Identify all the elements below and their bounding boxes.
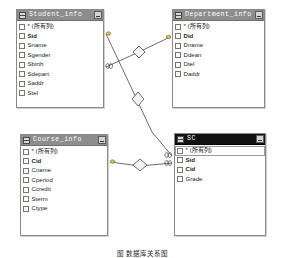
table-icon: [177, 136, 184, 143]
field-checkbox[interactable]: [175, 33, 181, 39]
field-label: Dtel: [184, 61, 195, 68]
field-row[interactable]: Grade: [175, 175, 265, 185]
field-label: Sterm: [32, 196, 48, 203]
field-row[interactable]: * (所有列): [17, 22, 103, 32]
field-label: * (所有列): [28, 23, 54, 30]
field-row[interactable]: Dtel: [173, 60, 264, 70]
title-bar-sc[interactable]: SC: [175, 134, 265, 145]
field-row[interactable]: Ddean: [173, 51, 264, 61]
field-label: Sdepart: [28, 71, 49, 78]
field-row[interactable]: Stel: [17, 89, 103, 99]
field-row[interactable]: Ctype: [21, 204, 107, 214]
table-window-department-info[interactable]: Department_info * (所有列) Did Dname Ddean: [172, 9, 265, 108]
field-checkbox[interactable]: [175, 52, 181, 58]
field-checkbox[interactable]: [23, 149, 29, 155]
table-title-label: Department_info: [185, 11, 255, 19]
relationship-diamond-course-sc: [133, 159, 147, 171]
field-row[interactable]: * (所有列): [175, 146, 265, 156]
minimize-icon[interactable]: [94, 11, 102, 19]
table-icon: [23, 137, 30, 144]
field-checkbox[interactable]: [19, 24, 25, 30]
relationship-line-student-sc: [106, 34, 172, 156]
field-row[interactable]: Cid: [175, 165, 265, 175]
minimize-icon[interactable]: [255, 11, 263, 19]
field-checkbox[interactable]: [177, 176, 183, 182]
field-label: Grade: [186, 176, 203, 183]
field-label: Cname: [32, 167, 52, 174]
field-checkbox[interactable]: [19, 71, 25, 77]
field-row[interactable]: * (所有列): [173, 22, 264, 32]
table-window-sc[interactable]: SC * (所有列) Sid Cid Grade: [174, 133, 266, 236]
field-label: Cid: [186, 166, 196, 173]
field-row[interactable]: Cname: [21, 166, 107, 176]
table-window-course-info[interactable]: Course_info * (所有列) Cid Cname Cperiod: [20, 134, 108, 236]
field-checkbox[interactable]: [23, 177, 29, 183]
field-checkbox[interactable]: [19, 43, 25, 49]
field-checkbox[interactable]: [175, 62, 181, 68]
field-label: * (所有列): [186, 147, 212, 154]
field-checkbox[interactable]: [23, 158, 29, 164]
key-endpoint-student-sid: [106, 32, 110, 35]
field-row[interactable]: Sbirth: [17, 60, 103, 70]
field-label: * (所有列): [32, 148, 58, 155]
table-title-label: Student_info: [29, 11, 94, 19]
relationship-diamond-student-department: [133, 46, 145, 58]
field-checkbox[interactable]: [175, 71, 181, 77]
field-checkbox[interactable]: [23, 206, 29, 212]
field-row[interactable]: Dname: [173, 41, 264, 51]
field-row[interactable]: Sterm: [21, 195, 107, 205]
title-bar-course-info[interactable]: Course_info: [21, 135, 107, 146]
field-label: Daddr: [184, 71, 201, 78]
field-row[interactable]: Ccredit: [21, 185, 107, 195]
field-checkbox[interactable]: [19, 52, 25, 58]
minimize-icon[interactable]: [98, 136, 106, 144]
field-label: Sid: [28, 33, 37, 40]
field-row[interactable]: Sgender: [17, 51, 103, 61]
field-row[interactable]: Did: [173, 32, 264, 42]
field-row[interactable]: Daddr: [173, 70, 264, 80]
field-label: Sname: [28, 42, 47, 49]
table-window-student-info[interactable]: Student_info * (所有列) Sid Sname Sgender: [16, 9, 104, 108]
field-checkbox[interactable]: [19, 62, 25, 68]
field-row[interactable]: Sid: [175, 156, 265, 166]
field-list-sc: * (所有列) Sid Cid Grade: [175, 145, 265, 184]
field-row[interactable]: Sid: [17, 32, 103, 42]
field-label: Ctype: [32, 205, 48, 212]
field-row[interactable]: Cid: [21, 157, 107, 167]
field-checkbox[interactable]: [175, 43, 181, 49]
field-label: Did: [184, 33, 194, 40]
field-label: Sid: [186, 157, 195, 164]
field-label: Sbirth: [28, 61, 44, 68]
key-endpoint-course-cid: [110, 160, 114, 163]
field-checkbox[interactable]: [175, 24, 181, 30]
field-row[interactable]: Sname: [17, 41, 103, 51]
field-checkbox[interactable]: [177, 167, 183, 173]
database-diagram-canvas: Student_info * (所有列) Sid Sname Sgender: [0, 0, 285, 258]
title-bar-student-info[interactable]: Student_info: [17, 10, 103, 21]
title-bar-department-info[interactable]: Department_info: [173, 10, 264, 21]
many-endpoint-sc-cid: [165, 161, 172, 166]
field-checkbox[interactable]: [19, 90, 25, 96]
field-row[interactable]: * (所有列): [21, 147, 107, 157]
field-label: Stel: [28, 90, 39, 97]
field-list-student-info: * (所有列) Sid Sname Sgender Sbirth Sdepart: [17, 21, 103, 98]
field-label: * (所有列): [184, 23, 210, 30]
field-checkbox[interactable]: [19, 81, 25, 87]
field-row[interactable]: Cperiod: [21, 176, 107, 186]
relationship-diamond-student-sc: [132, 92, 144, 106]
field-row[interactable]: Sdepart: [17, 70, 103, 80]
field-checkbox[interactable]: [177, 157, 183, 163]
field-label: Ddean: [184, 52, 202, 59]
relationship-line-student-department: [106, 37, 170, 67]
field-checkbox[interactable]: [23, 196, 29, 202]
field-checkbox[interactable]: [177, 148, 183, 154]
field-label: Cid: [32, 158, 42, 165]
many-endpoint-student-sdepart: [106, 64, 113, 69]
field-checkbox[interactable]: [23, 187, 29, 193]
minimize-icon[interactable]: [256, 135, 264, 143]
table-icon: [175, 12, 182, 19]
field-checkbox[interactable]: [23, 168, 29, 174]
field-row[interactable]: Saddr: [17, 79, 103, 89]
figure-caption: 图 数据库关系图: [0, 249, 285, 258]
field-checkbox[interactable]: [19, 33, 25, 39]
